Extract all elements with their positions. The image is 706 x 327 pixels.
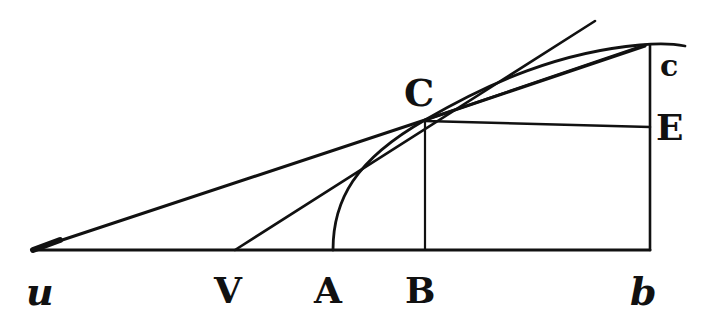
chord-cc [425, 45, 645, 120]
label-c-upper: C [404, 70, 434, 115]
label-b-upper: B [405, 269, 435, 311]
tangent-vc [235, 21, 595, 250]
label-c-lower: c [660, 48, 678, 83]
label-a: A [313, 269, 343, 311]
segment-ce [425, 121, 650, 127]
label-u: u [26, 269, 54, 314]
label-e: E [656, 106, 683, 148]
label-b-lower: b [630, 269, 657, 314]
geometry-figure: u V A B b C E c [0, 0, 706, 327]
label-v: V [213, 269, 243, 311]
